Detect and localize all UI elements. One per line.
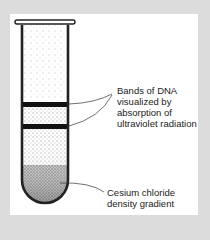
- dna-band-upper: [22, 102, 68, 107]
- test-tube-rim: [15, 20, 75, 24]
- tube-contents: [22, 25, 68, 215]
- leader-line-lower-band: [69, 95, 112, 126]
- gradient-label: Cesium chloride density gradient: [107, 187, 197, 209]
- leader-line-upper-band: [69, 94, 112, 104]
- dna-bands-label: Bands of DNA visualized by absorption of…: [117, 85, 207, 129]
- dna-band-lower: [22, 124, 68, 129]
